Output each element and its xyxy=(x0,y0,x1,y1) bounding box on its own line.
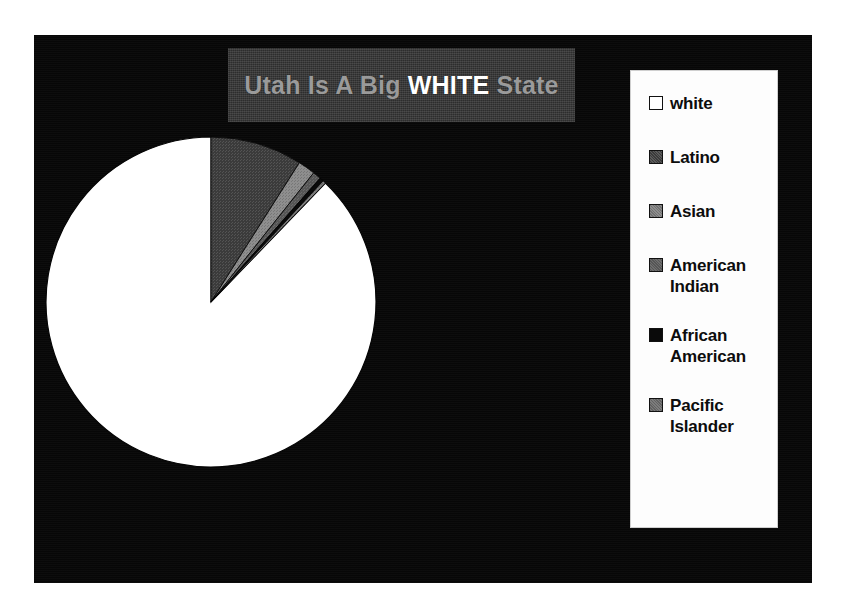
legend-swatch-icon xyxy=(649,328,663,342)
legend-swatch-icon xyxy=(649,204,663,218)
title-highlight: WHITE xyxy=(408,71,490,99)
chart-plate: Utah Is A Big WHITE State whiteLatinoAsi… xyxy=(34,35,812,583)
legend-swatch-icon xyxy=(649,398,663,412)
legend-item-label: white xyxy=(670,93,712,114)
legend-item-label: African American xyxy=(670,325,771,367)
legend-item[interactable]: Pacific Islander xyxy=(631,395,777,437)
pie-canvas xyxy=(45,136,377,468)
legend-item-label: Asian xyxy=(670,201,715,222)
title-suffix: State xyxy=(489,71,558,99)
chart-legend: whiteLatinoAsianAmerican IndianAfrican A… xyxy=(630,70,778,528)
legend-swatch-icon xyxy=(649,96,663,110)
legend-item[interactable]: Asian xyxy=(631,201,777,227)
legend-item-label: Pacific Islander xyxy=(670,395,771,437)
legend-swatch-icon xyxy=(649,150,663,164)
legend-item-label: American Indian xyxy=(670,255,771,297)
chart-title-banner: Utah Is A Big WHITE State xyxy=(228,48,575,122)
legend-item[interactable]: white xyxy=(631,93,777,119)
legend-item-label: Latino xyxy=(670,147,720,168)
page-title: Utah Is A Big WHITE State xyxy=(244,71,558,100)
legend-swatch-icon xyxy=(649,258,663,272)
title-prefix: Utah Is A Big xyxy=(244,71,407,99)
pie-svg xyxy=(45,136,377,468)
legend-item[interactable]: Latino xyxy=(631,147,777,173)
legend-item[interactable]: African American xyxy=(631,325,777,367)
legend-item[interactable]: American Indian xyxy=(631,255,777,297)
